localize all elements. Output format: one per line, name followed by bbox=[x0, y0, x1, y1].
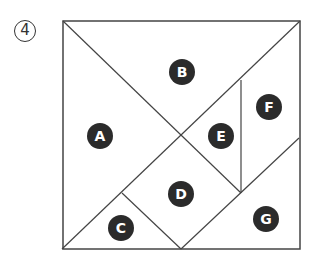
piece-label-g: G bbox=[253, 206, 279, 232]
piece-label-c: C bbox=[108, 215, 134, 241]
piece-label-a: A bbox=[87, 123, 113, 149]
piece-label-b: B bbox=[169, 59, 195, 85]
piece-label-f: F bbox=[256, 94, 282, 120]
diagonal-top-left-to-center bbox=[63, 21, 241, 193]
piece-label-d: D bbox=[168, 181, 194, 207]
d-g-divider bbox=[181, 138, 299, 249]
piece-label-e: E bbox=[208, 123, 234, 149]
